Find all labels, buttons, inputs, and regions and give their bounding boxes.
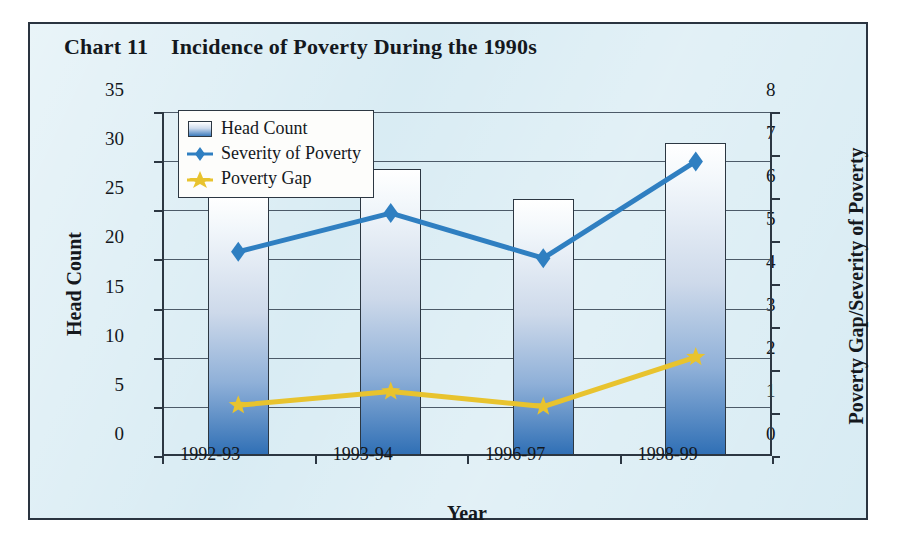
y-axis-left-tick	[154, 259, 162, 261]
y-axis-right-tick	[772, 241, 780, 243]
marker-poverty-gap	[534, 397, 553, 415]
chart-legend: Head Count Severity of Poverty	[178, 110, 374, 198]
x-axis-tick	[772, 456, 774, 464]
chart-figure-frame: Chart 11 Incidence of Poverty During the…	[28, 22, 868, 520]
y-axis-right-tick	[772, 327, 780, 329]
y-axis-right-tick	[772, 155, 780, 157]
y-axis-left-tick	[154, 407, 162, 409]
x-axis-category-label: 1996-97	[485, 444, 545, 465]
legend-label-severity-of-poverty: Severity of Poverty	[221, 143, 361, 164]
y-axis-left-tick	[154, 210, 162, 212]
y-axis-left-tick	[154, 161, 162, 163]
x-axis-tick	[467, 456, 469, 464]
y-axis-left-tick-label: 20	[76, 226, 124, 248]
x-axis-category-label: 1992-93	[180, 444, 240, 465]
legend-item-severity-of-poverty: Severity of Poverty	[187, 141, 361, 166]
x-axis-title: Year	[447, 502, 487, 525]
y-axis-left-tick	[154, 358, 162, 360]
chart-title: Chart 11 Incidence of Poverty During the…	[64, 34, 537, 60]
y-axis-right-tick	[772, 413, 780, 415]
y-axis-right-tick-label: 8	[766, 79, 776, 101]
marker-severity-of-poverty	[384, 203, 398, 223]
y-axis-left-tick-label: 30	[76, 128, 124, 150]
x-axis-tick	[315, 456, 317, 464]
legend-item-poverty-gap: Poverty Gap	[187, 166, 361, 191]
y-axis-left-tick-label: 10	[76, 325, 124, 347]
screenshot-page: Chart 11 Incidence of Poverty During the…	[0, 0, 898, 545]
marker-poverty-gap	[229, 395, 248, 413]
legend-item-head-count: Head Count	[187, 116, 361, 141]
y-axis-left-tick-label: 5	[76, 374, 124, 396]
y-axis-right-tick	[772, 284, 780, 286]
marker-severity-of-poverty	[231, 242, 245, 262]
y-axis-right-title: Poverty Gap/Severity of Poverty	[845, 147, 868, 424]
legend-label-poverty-gap: Poverty Gap	[221, 168, 311, 189]
marker-severity-of-poverty	[536, 248, 550, 268]
y-axis-left-tick-label: 25	[76, 177, 124, 199]
line-poverty-gap	[238, 357, 696, 406]
y-axis-left-tick	[154, 112, 162, 114]
y-axis-right-tick	[772, 198, 780, 200]
y-axis-left-tick-label: 0	[76, 423, 124, 445]
marker-poverty-gap	[381, 382, 400, 400]
y-axis-left-tick	[154, 309, 162, 311]
x-axis-tick	[620, 456, 622, 464]
diamond-marker-icon	[187, 141, 213, 166]
legend-label-head-count: Head Count	[221, 118, 307, 139]
y-axis-left-tick	[154, 456, 162, 458]
star-marker-icon	[187, 166, 213, 191]
bar-swatch-icon	[187, 116, 213, 141]
y-axis-left-tick-label: 15	[76, 276, 124, 298]
y-axis-left-line	[162, 112, 164, 456]
marker-severity-of-poverty	[689, 151, 703, 171]
marker-poverty-gap	[686, 347, 705, 365]
y-axis-right-tick	[772, 112, 780, 114]
x-axis-category-label: 1998-99	[638, 444, 698, 465]
x-axis-tick	[162, 456, 164, 464]
y-axis-left-tick-label: 35	[76, 79, 124, 101]
x-axis-category-label: 1993-94	[333, 444, 393, 465]
y-axis-right-tick	[772, 370, 780, 372]
